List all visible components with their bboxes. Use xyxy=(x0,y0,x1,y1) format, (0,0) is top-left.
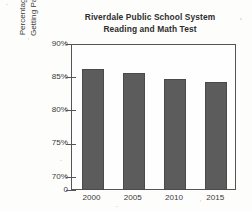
bar-2010 xyxy=(164,79,186,190)
scan-speck xyxy=(6,4,8,5)
scan-speck xyxy=(60,160,62,161)
y-tick-label-85: 85% xyxy=(34,73,68,81)
y-axis-title: Percentage of Students Getting Passing G… xyxy=(18,0,42,68)
x-tick-label-2015: 2015 xyxy=(195,194,235,202)
bar-2005 xyxy=(123,73,145,190)
bar-2015 xyxy=(205,82,227,190)
y-tick-label-75: 75% xyxy=(34,139,68,147)
y-tick-label-80: 80% xyxy=(34,106,68,114)
x-tick-label-2010: 2010 xyxy=(154,194,194,202)
x-tick-label-2000: 2000 xyxy=(72,194,112,202)
bar-2000 xyxy=(82,69,104,190)
chart-title: Riverdale Public School System Reading a… xyxy=(52,12,248,35)
scan-speck xyxy=(240,18,242,20)
chart-title-line-1: Riverdale Public School System xyxy=(52,12,248,24)
y-tick-label-90: 90% xyxy=(34,40,68,48)
chart-title-line-2: Reading and Math Test xyxy=(52,24,248,36)
scan-speck xyxy=(28,38,29,40)
bar-chart-figure: Riverdale Public School System Reading a… xyxy=(0,0,252,212)
y-tick-label-zero: 0 xyxy=(34,186,68,194)
y-axis-title-line-2: Getting Passing Grades xyxy=(29,0,40,68)
x-tick-label-2005: 2005 xyxy=(113,194,153,202)
scan-speck xyxy=(116,206,118,207)
y-tick-mark-zero xyxy=(66,190,76,191)
y-tick-label-70: 70% xyxy=(34,173,68,181)
bars-layer xyxy=(72,45,235,190)
y-axis-title-line-1: Percentage of Students xyxy=(18,0,29,68)
scan-speck xyxy=(200,200,201,202)
